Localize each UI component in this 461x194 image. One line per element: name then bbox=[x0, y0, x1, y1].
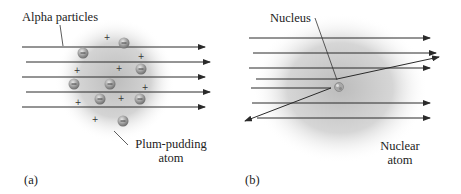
nucleus-icon bbox=[335, 83, 344, 92]
caption-a: (a) bbox=[24, 173, 38, 187]
label-plum-pudding-atom: Plum-pudding atom bbox=[134, 137, 208, 165]
caption-b: (b) bbox=[245, 173, 260, 187]
plus-icon: + bbox=[116, 64, 123, 73]
label-nuclear-atom: Nuclear atom bbox=[378, 139, 422, 167]
electron-icon bbox=[95, 94, 106, 105]
electron-icon bbox=[135, 94, 146, 105]
label-alpha-particles: Alpha particles bbox=[22, 10, 98, 24]
plus-icon: + bbox=[104, 33, 111, 42]
electron-icon bbox=[78, 48, 89, 59]
electron-icon bbox=[136, 64, 147, 75]
plus-icon: + bbox=[138, 52, 145, 61]
plus-icon: + bbox=[75, 98, 82, 107]
label-nucleus: Nucleus bbox=[270, 11, 311, 25]
electron-icon bbox=[118, 116, 129, 127]
plus-icon: + bbox=[142, 83, 149, 92]
plus-icon: + bbox=[118, 94, 125, 103]
plus-icon: + bbox=[74, 66, 81, 75]
electron-icon bbox=[105, 79, 116, 90]
plus-icon: + bbox=[92, 115, 99, 124]
electron-icon bbox=[69, 79, 80, 90]
electron-icon bbox=[119, 38, 130, 49]
